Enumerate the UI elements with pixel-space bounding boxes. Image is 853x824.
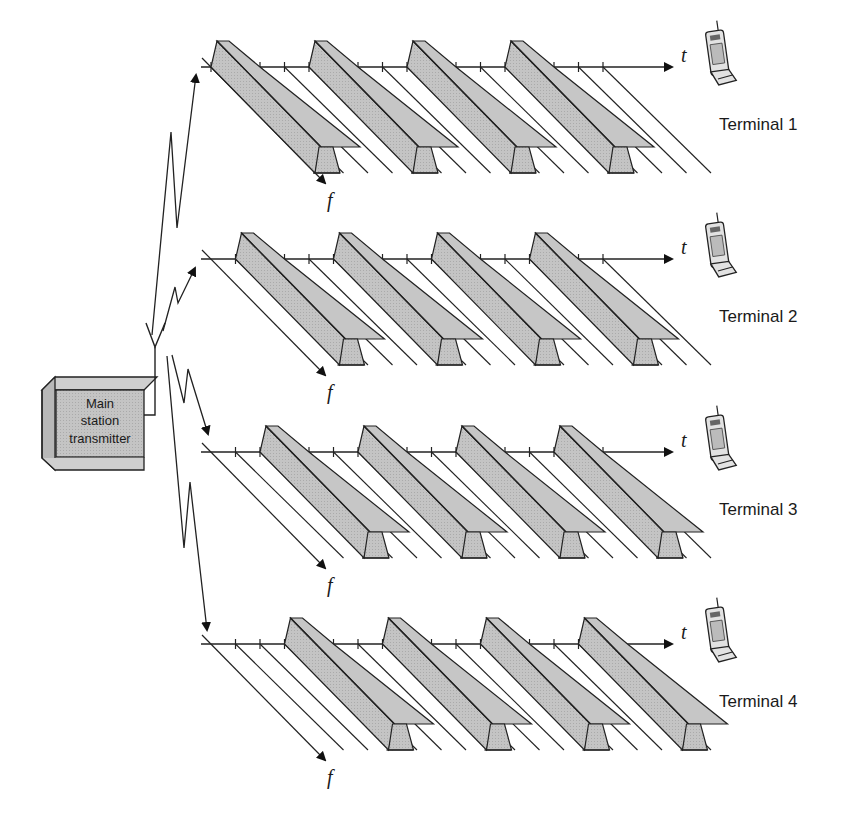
terminal-label: Terminal 2	[719, 307, 797, 326]
time-axis-label: t	[681, 429, 687, 451]
terminal-row-3: tfTerminal 3	[201, 404, 797, 597]
transmitter-label-line-3: transmitter	[69, 431, 131, 446]
frequency-axis-label: f	[327, 766, 335, 789]
terminal-row-4: tfTerminal 4	[201, 596, 797, 789]
frequency-axis-label: f	[327, 574, 335, 597]
radio-links	[152, 75, 208, 630]
frequency-axis-label: f	[327, 381, 335, 404]
mobile-phone-icon	[704, 211, 737, 278]
transmitter-label-line-2: station	[81, 413, 119, 428]
terminal-label: Terminal 3	[719, 500, 797, 519]
time-axis-label: t	[681, 236, 687, 258]
antenna-icon	[144, 323, 165, 415]
mobile-phone-icon	[704, 596, 737, 663]
mobile-phone-icon	[704, 404, 737, 471]
terminal-rows: tfTerminal 1tfTerminal 2tfTerminal 3tfTe…	[201, 19, 797, 789]
time-axis-label: t	[681, 44, 687, 66]
mobile-phone-icon	[704, 19, 737, 86]
tdma-diagram: Main station transmitter tfTerminal 1tfT…	[0, 0, 853, 824]
terminal-label: Terminal 1	[719, 115, 797, 134]
frequency-axis-label: f	[327, 189, 335, 212]
terminal-row-2: tfTerminal 2	[201, 211, 797, 404]
transmitter-label-line-1: Main	[86, 396, 114, 411]
radio-link-terminal-1	[152, 75, 196, 335]
radio-link-terminal-4	[167, 356, 207, 630]
radio-link-terminal-2	[163, 268, 195, 331]
terminal-label: Terminal 4	[719, 692, 797, 711]
radio-link-terminal-3	[172, 355, 208, 434]
time-axis-label: t	[681, 621, 687, 643]
main-station-transmitter: Main station transmitter	[42, 377, 157, 470]
terminal-row-1: tfTerminal 1	[201, 19, 797, 212]
